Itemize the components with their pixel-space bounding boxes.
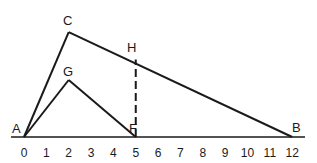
segment-cb bbox=[69, 32, 293, 137]
tick-label-1: 1 bbox=[43, 146, 50, 160]
tick-label-5: 5 bbox=[132, 146, 139, 160]
point-label-a: A bbox=[12, 121, 21, 136]
segment-ac bbox=[24, 32, 69, 137]
tick-label-11: 11 bbox=[264, 146, 277, 160]
tick-label-4: 4 bbox=[110, 146, 117, 160]
point-label-b: B bbox=[292, 120, 301, 135]
tick-label-12: 12 bbox=[286, 146, 300, 160]
point-label-f: F bbox=[129, 121, 137, 136]
segment-ag bbox=[24, 80, 69, 137]
point-label-g: G bbox=[63, 64, 73, 79]
tick-label-0: 0 bbox=[21, 146, 28, 160]
tick-label-7: 7 bbox=[177, 146, 184, 160]
segments-group bbox=[24, 32, 292, 137]
tick-label-10: 10 bbox=[241, 146, 255, 160]
tick-label-8: 8 bbox=[199, 146, 206, 160]
tick-label-3: 3 bbox=[88, 146, 95, 160]
tick-label-6: 6 bbox=[155, 146, 162, 160]
tick-label-2: 2 bbox=[65, 146, 72, 160]
tick-labels-group: 0123456789101112 bbox=[21, 146, 300, 160]
triangle-diagram: 0123456789101112 A B C G H F bbox=[0, 0, 317, 163]
point-label-c: C bbox=[63, 13, 72, 28]
tick-label-9: 9 bbox=[222, 146, 229, 160]
point-label-h: H bbox=[127, 40, 136, 55]
segment-gf bbox=[69, 80, 136, 137]
